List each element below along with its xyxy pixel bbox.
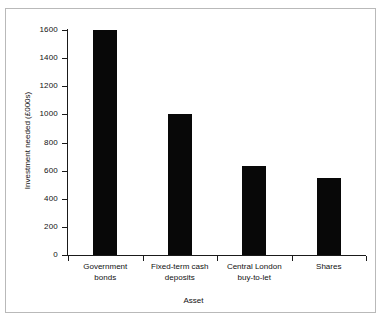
x-axis-category-label: Fixed-term cashdeposits bbox=[143, 262, 218, 283]
x-axis-category-line: bonds bbox=[68, 273, 143, 284]
x-axis-category-line: Government bbox=[68, 262, 143, 273]
x-axis-tick bbox=[217, 256, 218, 261]
x-axis-tick bbox=[292, 256, 293, 261]
bar bbox=[93, 30, 117, 255]
x-axis-category-label: Governmentbonds bbox=[68, 262, 143, 283]
x-axis-tick bbox=[143, 256, 144, 261]
x-axis-tick bbox=[68, 256, 69, 261]
x-axis-category-line: buy-to-let bbox=[217, 273, 292, 284]
y-axis-tick-label: 400 bbox=[44, 195, 58, 203]
bar bbox=[317, 178, 341, 255]
x-axis-title: Asset bbox=[0, 296, 387, 305]
x-axis-category-line: deposits bbox=[143, 273, 218, 284]
y-axis-tick-label: 0 bbox=[53, 251, 58, 259]
x-axis-category-line: Fixed-term cash bbox=[143, 262, 218, 273]
y-axis-title: Investment needed (£000s) bbox=[23, 46, 32, 236]
y-axis-tick-label: 1200 bbox=[39, 82, 58, 90]
x-axis-category-label: Shares bbox=[292, 262, 367, 273]
y-axis-tick-label: 1600 bbox=[39, 26, 58, 34]
chart-page: 02004006008001000120014001600 Government… bbox=[0, 0, 387, 322]
x-axis-category-line: Shares bbox=[292, 262, 367, 273]
y-axis-tick-label: 1000 bbox=[39, 110, 58, 118]
x-axis-category-line: Central London bbox=[217, 262, 292, 273]
y-axis-tick-label: 800 bbox=[44, 139, 58, 147]
plot-area bbox=[68, 30, 366, 255]
x-axis-tick bbox=[366, 256, 367, 261]
bar bbox=[242, 166, 266, 255]
y-axis-tick-label: 200 bbox=[44, 223, 58, 231]
bar bbox=[168, 114, 192, 255]
x-axis-category-label: Central Londonbuy-to-let bbox=[217, 262, 292, 283]
bar-chart: 02004006008001000120014001600 Government… bbox=[0, 0, 387, 322]
y-axis-tick-label: 600 bbox=[44, 167, 58, 175]
y-axis-tick-label: 1400 bbox=[39, 54, 58, 62]
